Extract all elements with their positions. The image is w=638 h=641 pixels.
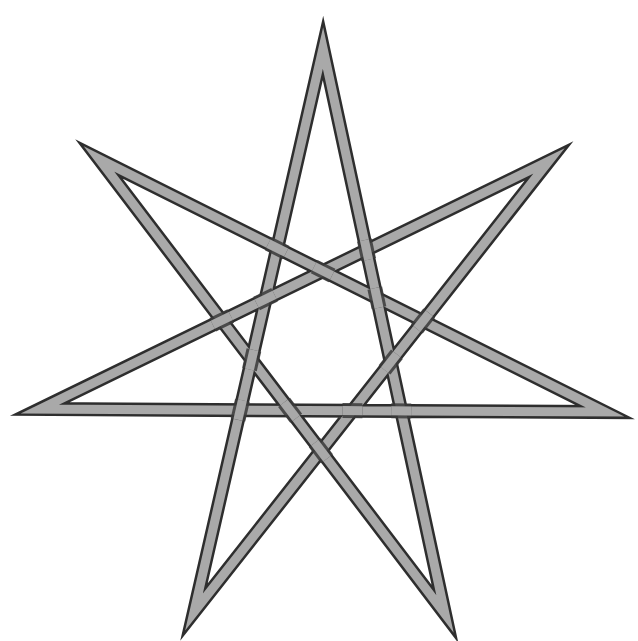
crossing-over-band bbox=[238, 400, 242, 419]
crossing-over-band bbox=[364, 240, 368, 260]
heptagram-figure bbox=[0, 0, 638, 641]
crossing-over-band bbox=[249, 350, 253, 369]
crossing-over-band bbox=[375, 288, 379, 308]
